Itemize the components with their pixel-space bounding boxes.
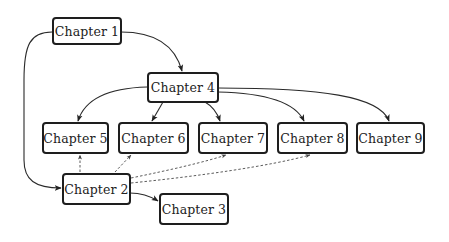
edge-ch4-ch9	[218, 88, 389, 121]
edge-ch4-ch6	[152, 102, 163, 121]
node-chapter-3: Chapter 3	[159, 193, 229, 225]
edge-ch4-ch5	[78, 87, 147, 121]
node-chapter-6: Chapter 6	[118, 122, 189, 154]
edge-ch2-ch7	[131, 155, 226, 178]
chapter-dependency-diagram: Chapter 1 Chapter 4 Chapter 5 Chapter 6 …	[0, 0, 449, 242]
node-label: Chapter 8	[280, 131, 344, 146]
node-label: Chapter 5	[43, 131, 107, 146]
node-label: Chapter 3	[162, 202, 226, 217]
node-label: Chapter 9	[358, 131, 422, 146]
edge-ch1-ch4	[121, 32, 182, 71]
edge-ch2-ch8	[131, 155, 310, 183]
edge-ch1-ch2	[24, 32, 61, 188]
node-chapter-9: Chapter 9	[356, 122, 425, 154]
node-label: Chapter 7	[201, 131, 265, 146]
edge-ch2-ch3	[130, 193, 158, 201]
node-chapter-1: Chapter 1	[52, 17, 122, 45]
edge-ch2-ch6	[115, 155, 131, 172]
node-chapter-4: Chapter 4	[147, 72, 219, 103]
edge-ch4-ch7	[205, 102, 220, 121]
node-chapter-2: Chapter 2	[62, 173, 131, 205]
node-label: Chapter 4	[151, 80, 215, 95]
node-label: Chapter 1	[55, 24, 119, 39]
node-label: Chapter 6	[121, 131, 185, 146]
node-chapter-8: Chapter 8	[277, 122, 348, 154]
edge-ch4-ch8	[218, 92, 304, 121]
node-label: Chapter 2	[64, 182, 128, 197]
node-chapter-7: Chapter 7	[198, 122, 268, 154]
node-chapter-5: Chapter 5	[42, 122, 109, 154]
